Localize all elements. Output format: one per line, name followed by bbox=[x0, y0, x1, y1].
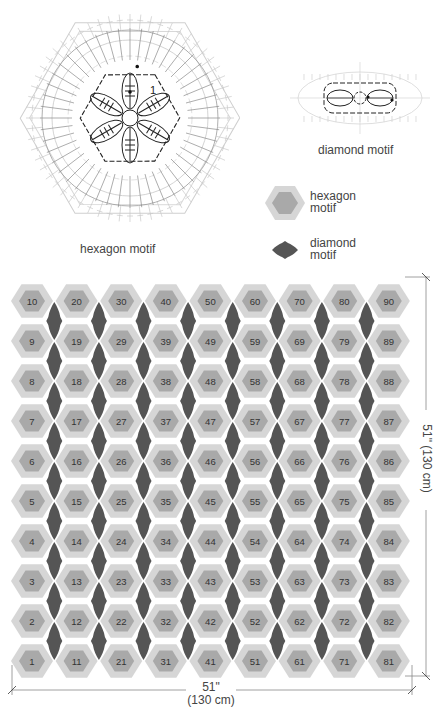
hexagon-number: 1 bbox=[29, 656, 34, 667]
hexagon-motif-9: 9 bbox=[11, 324, 53, 357]
hexagon-motif-71: 71 bbox=[323, 644, 365, 677]
hexagon-motif-86: 86 bbox=[368, 444, 410, 477]
hexagon-number: 22 bbox=[116, 616, 127, 627]
hexagon-motif-56: 56 bbox=[234, 444, 276, 477]
hexagon-number: 13 bbox=[71, 576, 82, 587]
hexagon-motif-67: 67 bbox=[279, 404, 321, 437]
hexagon-motif-47: 47 bbox=[189, 404, 231, 437]
hexagon-motif-72: 72 bbox=[323, 604, 365, 637]
hexagon-number: 74 bbox=[339, 536, 350, 547]
hexagon-number: 84 bbox=[384, 536, 395, 547]
hexagon-number: 86 bbox=[384, 456, 395, 467]
hexagon-motif-10: 10 bbox=[11, 284, 53, 317]
hexagon-number: 70 bbox=[294, 296, 305, 307]
hexagon-number: 47 bbox=[205, 416, 216, 427]
hexagon-motif-38: 38 bbox=[145, 364, 187, 397]
hexagon-number: 81 bbox=[384, 656, 395, 667]
hexagon-number: 45 bbox=[205, 496, 216, 507]
hexagon-motif-75: 75 bbox=[323, 484, 365, 517]
hexagon-number: 31 bbox=[161, 656, 172, 667]
hexagon-number: 55 bbox=[250, 496, 261, 507]
hexagon-number: 10 bbox=[27, 296, 38, 307]
hexagon-number: 27 bbox=[116, 416, 127, 427]
hexagon-motif-50: 50 bbox=[189, 284, 231, 317]
hexagon-number: 9 bbox=[29, 336, 34, 347]
hexagon-motif-4: 4 bbox=[11, 524, 53, 557]
hexagon-motif-21: 21 bbox=[100, 644, 142, 677]
hexagon-number: 40 bbox=[161, 296, 172, 307]
hexagon-number: 82 bbox=[384, 616, 395, 627]
hexagon-motif-66: 66 bbox=[279, 444, 321, 477]
hexagon-motif-26: 26 bbox=[100, 444, 142, 477]
hexagon-number: 52 bbox=[250, 616, 261, 627]
hexagon-number: 65 bbox=[294, 496, 305, 507]
assembly-diagram: 1020304050607080909192939495969798981828… bbox=[0, 0, 447, 714]
width-metric: (130 cm) bbox=[186, 694, 236, 707]
hexagon-number: 75 bbox=[339, 496, 350, 507]
hexagon-motif-22: 22 bbox=[100, 604, 142, 637]
hexagon-motif-83: 83 bbox=[368, 564, 410, 597]
hexagon-number: 63 bbox=[294, 576, 305, 587]
hexagon-number: 88 bbox=[384, 376, 395, 387]
hexagon-motif-17: 17 bbox=[56, 404, 98, 437]
hexagon-motif-40: 40 bbox=[145, 284, 187, 317]
hexagon-number: 56 bbox=[250, 456, 261, 467]
hexagon-motif-57: 57 bbox=[234, 404, 276, 437]
hexagon-number: 78 bbox=[339, 376, 350, 387]
hexagon-motif-90: 90 bbox=[368, 284, 410, 317]
hexagon-motif-49: 49 bbox=[189, 324, 231, 357]
hexagon-number: 73 bbox=[339, 576, 350, 587]
hexagon-number: 50 bbox=[205, 296, 216, 307]
hexagon-motif-59: 59 bbox=[234, 324, 276, 357]
hexagon-number: 6 bbox=[29, 456, 34, 467]
hexagon-motif-52: 52 bbox=[234, 604, 276, 637]
hexagon-motif-48: 48 bbox=[189, 364, 231, 397]
hexagon-number: 42 bbox=[205, 616, 216, 627]
hexagon-number: 49 bbox=[205, 336, 216, 347]
hexagon-motif-18: 18 bbox=[56, 364, 98, 397]
hexagon-motif-54: 54 bbox=[234, 524, 276, 557]
hexagon-number: 33 bbox=[161, 576, 172, 587]
hexagon-motif-31: 31 bbox=[145, 644, 187, 677]
hexagon-motif-44: 44 bbox=[189, 524, 231, 557]
hexagon-number: 20 bbox=[71, 296, 82, 307]
hexagon-motif-61: 61 bbox=[279, 644, 321, 677]
hexagon-number: 16 bbox=[71, 456, 82, 467]
hexagon-number: 68 bbox=[294, 376, 305, 387]
hexagon-motif-25: 25 bbox=[100, 484, 142, 517]
hexagon-motif-64: 64 bbox=[279, 524, 321, 557]
hexagon-number: 57 bbox=[250, 416, 261, 427]
hexagon-number: 15 bbox=[71, 496, 82, 507]
hexagon-motif-23: 23 bbox=[100, 564, 142, 597]
hexagon-number: 26 bbox=[116, 456, 127, 467]
hexagon-motif-82: 82 bbox=[368, 604, 410, 637]
hexagon-number: 25 bbox=[116, 496, 127, 507]
hexagon-number: 69 bbox=[294, 336, 305, 347]
hexagon-motif-39: 39 bbox=[145, 324, 187, 357]
hexagon-motif-27: 27 bbox=[100, 404, 142, 437]
hexagon-motif-36: 36 bbox=[145, 444, 187, 477]
hexagon-motif-32: 32 bbox=[145, 604, 187, 637]
hexagon-motif-68: 68 bbox=[279, 364, 321, 397]
hexagon-number: 53 bbox=[250, 576, 261, 587]
height-imperial: 51" bbox=[420, 424, 434, 442]
hexagon-number: 46 bbox=[205, 456, 216, 467]
hexagon-motif-13: 13 bbox=[56, 564, 98, 597]
hexagon-number: 80 bbox=[339, 296, 350, 307]
hexagon-number: 30 bbox=[116, 296, 127, 307]
hexagon-number: 87 bbox=[384, 416, 395, 427]
hexagon-motif-7: 7 bbox=[11, 404, 53, 437]
hexagon-motif-63: 63 bbox=[279, 564, 321, 597]
hexagon-motif-77: 77 bbox=[323, 404, 365, 437]
hexagon-number: 77 bbox=[339, 416, 350, 427]
hexagon-number: 44 bbox=[205, 536, 216, 547]
hexagon-motif-60: 60 bbox=[234, 284, 276, 317]
hexagon-motif-45: 45 bbox=[189, 484, 231, 517]
hexagon-motif-14: 14 bbox=[56, 524, 98, 557]
hexagon-number: 58 bbox=[250, 376, 261, 387]
hexagon-motif-55: 55 bbox=[234, 484, 276, 517]
hexagon-number: 35 bbox=[161, 496, 172, 507]
hexagon-number: 54 bbox=[250, 536, 261, 547]
hexagon-motif-84: 84 bbox=[368, 524, 410, 557]
hexagon-number: 51 bbox=[250, 656, 261, 667]
